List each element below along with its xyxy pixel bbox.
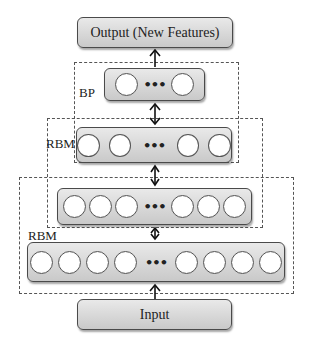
ellipsis: ••• xyxy=(144,77,166,92)
layer-4-bottom: ••• xyxy=(27,242,285,282)
connection-arrows xyxy=(0,0,309,346)
neuron-node xyxy=(109,134,132,157)
neuron-node xyxy=(58,251,81,274)
neuron-node xyxy=(115,195,138,218)
output-box: Output (New Features) xyxy=(77,17,233,48)
neuron-node xyxy=(208,134,231,157)
layer-2: ••• xyxy=(76,127,232,163)
neuron-node xyxy=(177,134,200,157)
neuron-node xyxy=(89,195,112,218)
neuron-node xyxy=(259,251,282,274)
neuron-node xyxy=(77,134,100,157)
input-label: Input xyxy=(140,307,170,323)
neuron-node xyxy=(86,251,109,274)
neuron-node xyxy=(63,195,86,218)
neuron-node xyxy=(203,251,226,274)
output-label: Output (New Features) xyxy=(90,25,219,41)
ellipsis: ••• xyxy=(144,199,166,214)
neuron-node xyxy=(175,251,198,274)
neuron-node xyxy=(231,251,254,274)
group-label-rbm-upper: RBM xyxy=(46,136,75,152)
ellipsis: ••• xyxy=(145,255,167,270)
neuron-node xyxy=(114,251,137,274)
neuron-node xyxy=(171,73,194,96)
neuron-node xyxy=(115,73,138,96)
layer-1-top: ••• xyxy=(104,68,205,101)
neuron-node xyxy=(197,195,220,218)
neuron-node xyxy=(171,195,194,218)
neuron-node xyxy=(223,195,246,218)
layer-3: ••• xyxy=(57,188,252,225)
input-box: Input xyxy=(77,299,232,330)
neuron-node xyxy=(30,251,53,274)
ellipsis: ••• xyxy=(143,138,165,153)
group-label-bp: BP xyxy=(79,85,95,101)
